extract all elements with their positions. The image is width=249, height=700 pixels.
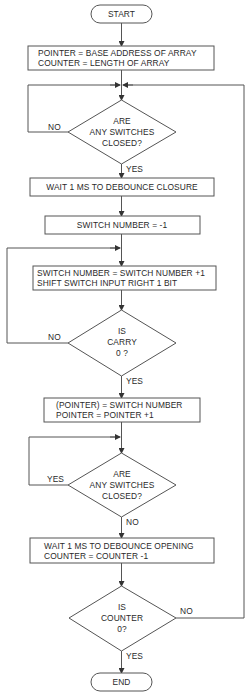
decision1-yes-label: YES [126,164,143,174]
switch-init-label: SWITCH NUMBER = -1 [77,220,168,230]
decision2-line3: 0 ? [116,348,128,358]
decision4-yes-label: YES [126,651,143,661]
decision3-line1: ARE [113,469,131,479]
store-line2: POINTER = POINTER +1 [56,410,154,420]
decision3-line2: ANY SWITCHES [90,480,155,490]
decision-any-switches-closed-2: ARE ANY SWITCHES CLOSED? YES NO [47,453,176,527]
flowchart: START POINTER = BASE ADDRESS OF ARRAY CO… [0,0,249,700]
end-label: END [113,677,131,687]
decision-any-switches-closed: ARE ANY SWITCHES CLOSED? NO YES [48,100,176,174]
init-line1: POINTER = BASE ADDRESS OF ARRAY [38,48,197,58]
start-label: START [108,9,135,19]
decision-counter-zero: IS COUNTER 0? NO YES [69,586,193,661]
init-line2: COUNTER = LENGTH OF ARRAY [38,58,170,68]
decision1-line3: CLOSED? [102,138,142,148]
end-terminator: END [91,673,152,691]
decision1-line2: ANY SWITCHES [90,127,155,137]
shift-line2: SHIFT SWITCH INPUT RIGHT 1 BIT [37,278,177,288]
store-process-box: (POINTER) = SWITCH NUMBER POINTER = POIN… [44,398,200,422]
start-terminator: START [91,5,152,23]
debounce-opening-line2: COUNTER = COUNTER -1 [44,551,148,561]
decision4-no-label: NO [180,606,193,616]
decision3-line3: CLOSED? [102,491,142,501]
decision3-no-label: NO [126,517,139,527]
decision-carry-zero: IS CARRY 0 ? NO YES [48,310,176,386]
decision4-line1: IS [118,602,126,612]
decision2-line2: CARRY [107,337,137,347]
debounce-closure-label: WAIT 1 MS TO DEBOUNCE CLOSURE [46,182,198,192]
decision4-line3: 0? [117,624,127,634]
decision2-no-label: NO [48,332,61,342]
shift-line1: SWITCH NUMBER = SWITCH NUMBER +1 [37,268,205,278]
debounce-closure-box: WAIT 1 MS TO DEBOUNCE CLOSURE [30,178,214,196]
decision2-yes-label: YES [126,376,143,386]
shift-process-box: SWITCH NUMBER = SWITCH NUMBER +1 SHIFT S… [33,266,216,290]
decision4-line2: COUNTER [101,613,143,623]
decision1-line1: ARE [113,116,131,126]
init-process-box: POINTER = BASE ADDRESS OF ARRAY COUNTER … [28,46,214,70]
decision2-line1: IS [118,326,126,336]
store-line1: (POINTER) = SWITCH NUMBER [56,400,183,410]
switch-init-box: SWITCH NUMBER = -1 [45,216,200,234]
decision3-yes-label: YES [47,474,64,484]
debounce-opening-box: WAIT 1 MS TO DEBOUNCE OPENING COUNTER = … [30,538,214,563]
decision1-no-label: NO [48,122,61,132]
debounce-opening-line1: WAIT 1 MS TO DEBOUNCE OPENING [44,541,194,551]
